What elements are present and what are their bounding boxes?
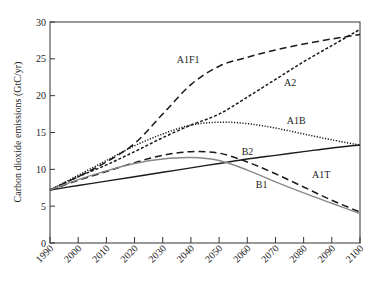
series-line-a1t bbox=[50, 151, 360, 212]
series-lines bbox=[50, 29, 360, 213]
x-tick-label: 2020 bbox=[118, 243, 140, 265]
series-label-a1f1: A1F1 bbox=[177, 54, 200, 65]
series-labels: A1F1A2A1BB2A1TB1 bbox=[177, 54, 331, 191]
y-tick-label: 25 bbox=[36, 53, 46, 64]
series-label-a1b: A1B bbox=[287, 115, 306, 126]
y-tick-label: 15 bbox=[36, 127, 46, 138]
x-tick-label: 2080 bbox=[287, 243, 309, 265]
y-axis-title: Carbon dioxide emissions (GtC/yr) bbox=[12, 62, 24, 203]
series-label-b2: B2 bbox=[242, 146, 254, 157]
y-axis: 051015202530 bbox=[36, 17, 55, 249]
series-line-a1f1 bbox=[50, 35, 360, 190]
x-tick-label: 2100 bbox=[343, 243, 365, 265]
y-tick-label: 20 bbox=[36, 90, 46, 101]
x-axis: 1990200020102020203020402050206020702080… bbox=[33, 237, 365, 265]
x-tick-label: 2030 bbox=[146, 243, 168, 265]
x-tick-label: 2050 bbox=[203, 243, 225, 265]
series-label-a2: A2 bbox=[284, 77, 296, 88]
x-tick-label: 2070 bbox=[259, 243, 281, 265]
x-tick-label: 2000 bbox=[62, 243, 84, 265]
series-label-a1t: A1T bbox=[312, 169, 330, 180]
x-tick-label: 1990 bbox=[33, 243, 55, 265]
x-tick-label: 2090 bbox=[315, 243, 337, 265]
y-tick-label: 30 bbox=[36, 17, 46, 28]
x-tick-label: 2060 bbox=[231, 243, 253, 265]
x-tick-label: 2040 bbox=[174, 243, 196, 265]
x-tick-label: 2010 bbox=[90, 243, 112, 265]
y-tick-label: 5 bbox=[41, 201, 46, 212]
y-tick-label: 10 bbox=[36, 164, 46, 175]
emissions-line-chart: 051015202530 199020002010202020302040205… bbox=[0, 0, 377, 291]
series-label-b1: B1 bbox=[256, 179, 268, 190]
